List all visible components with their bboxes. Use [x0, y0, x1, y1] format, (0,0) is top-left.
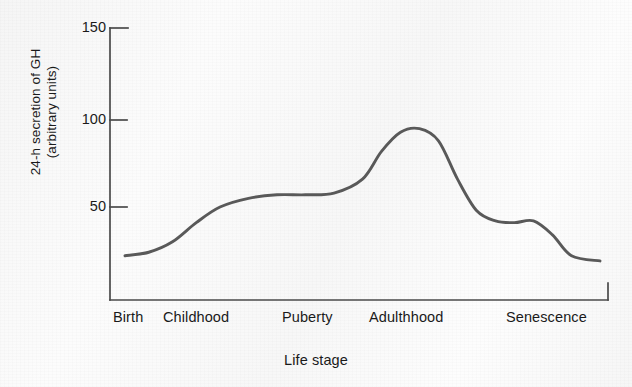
- chart-figure: 24-h secretion of GH (arbitrary units) 1…: [0, 0, 632, 387]
- plot-area: [0, 0, 632, 387]
- x-category-label-childhood: Childhood: [163, 309, 229, 325]
- x-axis-title: Life stage: [0, 352, 632, 368]
- x-category-label-adulthood: Adulthhood: [369, 309, 443, 325]
- x-category-label-puberty: Puberty: [282, 309, 333, 325]
- gh-secretion-curve: [125, 128, 600, 261]
- x-category-label-senescence: Senescence: [506, 309, 587, 325]
- x-category-label-birth: Birth: [113, 309, 143, 325]
